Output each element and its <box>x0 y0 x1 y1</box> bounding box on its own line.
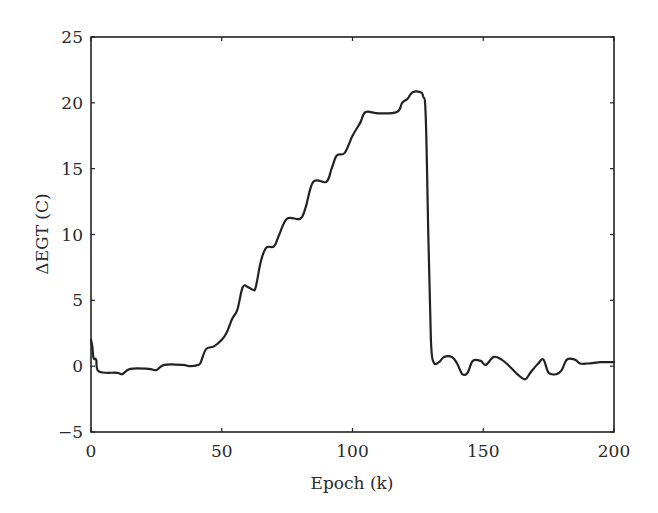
plot-area <box>91 37 614 432</box>
x-tick-label: 50 <box>211 441 233 461</box>
x-axis: 050100150200 <box>86 37 631 461</box>
y-tick-label: 15 <box>61 159 83 179</box>
x-tick-label: 100 <box>336 441 368 461</box>
x-tick-label: 0 <box>86 441 97 461</box>
x-tick-label: 200 <box>598 441 630 461</box>
y-tick-label: 20 <box>61 93 83 113</box>
y-axis: −50510152025 <box>58 27 614 442</box>
egt-line-chart: −50510152025 050100150200 Epoch (k) ΔEGT… <box>0 0 658 513</box>
y-tick-label: 10 <box>61 225 83 245</box>
y-tick-label: 5 <box>72 290 83 310</box>
plot-border <box>91 37 614 432</box>
data-line-delta-egt <box>91 92 614 380</box>
y-tick-label: 0 <box>72 356 83 376</box>
y-axis-label: ΔEGT (C) <box>32 193 52 274</box>
x-tick-label: 150 <box>467 441 499 461</box>
y-tick-label: −5 <box>58 422 83 442</box>
y-tick-label: 25 <box>61 27 83 47</box>
x-axis-label: Epoch (k) <box>311 473 394 493</box>
